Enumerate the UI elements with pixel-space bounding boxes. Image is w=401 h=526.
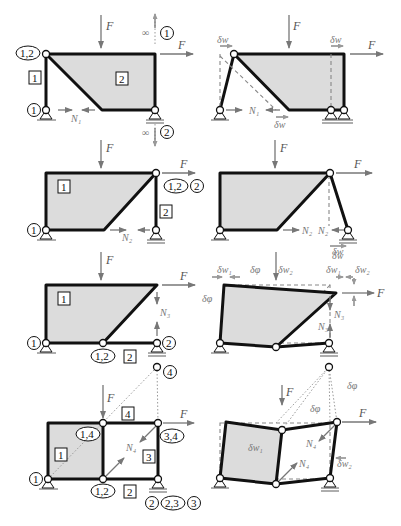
body-1-plate [220,173,330,230]
pole-label: 1 [164,27,170,39]
hinge [100,476,107,483]
body-label: 1 [32,72,38,84]
hinge [273,344,280,351]
force-label: F [179,157,188,171]
displacement-label: δw₂ [278,264,293,275]
body-label: 3 [146,451,152,463]
hinge [328,107,335,114]
hinge [155,420,162,427]
hinge [153,227,160,234]
body-label: 2 [127,486,133,498]
force-label: F [177,38,186,52]
body-label: 2 [119,73,125,85]
hinge [231,51,238,58]
pole-label: 2 [149,497,155,509]
normal-force-label: N₄ [125,442,137,453]
rotation-label: δφ [310,403,321,414]
hinge [155,476,162,483]
pole-label: 1,2 [168,180,182,192]
hinge [326,364,333,371]
hinge [43,51,50,58]
hinge [153,170,160,177]
body-1-plate-rotated [220,422,282,484]
normal-force-label: N₃ [159,307,171,318]
force-label: F [279,141,288,155]
row2-right-displacement: F F N₂ N₂ δw [211,140,372,257]
infinity-label: ∞ [142,127,149,138]
body-label: 1 [61,293,67,305]
body-label: 1 [61,181,67,193]
pole-label: 1,2 [95,350,109,362]
normal-force-label: N₄ [305,438,317,449]
normal-force-arrow [319,425,335,441]
displacement-label: δw [332,250,344,261]
hinge [100,340,107,347]
hinge [217,340,224,347]
hinge [326,340,333,347]
pole-label: 2 [164,126,170,138]
force-label: F [179,269,188,283]
force-label: F [105,19,114,33]
normal-force-label: N₂ [301,225,313,236]
rotation-label: δφ [347,380,358,391]
hinge [43,340,50,347]
force-label: F [106,391,115,405]
hinge [154,340,161,347]
hinge [327,475,334,482]
normal-force-label: N₄ [298,458,310,469]
displacement-label: δw [274,119,286,130]
body-label: 1 [58,449,64,461]
row3-left-structure: F F 1 N₃ 1 1,2 2 2 [28,252,196,363]
hinge [279,427,286,434]
hinge [217,107,224,114]
body-1-plate-displaced [220,285,336,347]
pole-label: 1,2 [95,485,109,497]
pole-label: 1 [31,104,37,116]
body-label: 2 [163,206,169,218]
hinge [341,107,348,114]
hinge [327,170,334,177]
pole-label: 2,3 [165,497,179,509]
pole-label: 1 [33,473,39,485]
displacement-label: δw [217,34,229,45]
force-label: F [353,157,362,171]
row1-right-displacement: F F δw δw δw N₁ [211,15,383,130]
hinge [334,419,341,426]
force-label: F [292,19,301,33]
normal-force-label: N₂ [121,232,133,243]
force-label: F [285,385,294,399]
rotation-label: δφ [250,264,261,275]
normal-force-arrow [106,458,124,476]
pole-line [276,367,329,423]
hinge [154,364,161,371]
body-label: 2 [127,351,133,363]
normal-force-label: N₂ [317,225,329,236]
pole-label: 2 [194,180,200,192]
normal-force-label: N₁ [248,105,259,116]
hinge [43,227,50,234]
hinge [100,420,107,427]
normal-force-label: N₃ [317,321,329,332]
normal-force-label: N₃ [333,309,345,320]
normal-force-label: N₁ [70,113,81,124]
force-label: F [179,407,188,421]
body-label: 4 [125,408,131,420]
force-label: F [358,406,367,420]
bar-2-rotated [330,173,348,230]
body-2-plate-displaced [234,54,344,110]
diagram-canvas: F F ∞ 1 1,2 1 2 1 N₁ ∞ 2 [0,0,401,526]
force-label: F [105,141,114,155]
row2-left-structure: F F 1 2 1,2 2 1 N₂ [28,140,204,243]
hinge [45,476,52,483]
infinity-label: ∞ [142,27,149,38]
row1-left-structure: F F ∞ 1 1,2 1 2 1 N₁ ∞ 2 [16,14,193,146]
pole-label: 1,2 [20,47,34,59]
row4-left-structure: F F N₄ 4 4 1,4 3,4 1 3 1 1,2 2 2 2,3 3 [30,364,201,511]
pole-label: 1 [31,224,37,236]
normal-force-arrow [279,463,297,481]
displacement-label: δw₁ [248,442,263,453]
pole-label: 1 [31,337,37,349]
hinge [43,107,50,114]
body-2-plate [46,54,155,110]
bar-2-rotated [276,343,329,347]
